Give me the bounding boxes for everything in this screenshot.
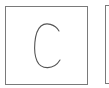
letter-tile-next[interactable] — [105, 5, 109, 84]
letter-tile-c[interactable]: C — [5, 6, 88, 85]
letter-c-glyph — [32, 22, 62, 70]
